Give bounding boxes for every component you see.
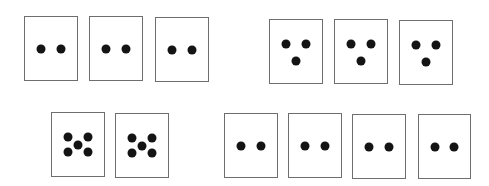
dot-icon (450, 142, 459, 151)
dot-icon (422, 57, 431, 66)
dot-card (334, 19, 388, 84)
dot-icon (37, 44, 46, 53)
dot-icon (64, 132, 73, 141)
dot-icon (256, 141, 265, 150)
dot-icon (187, 45, 196, 54)
dot-card (155, 17, 209, 82)
dot-icon (83, 148, 92, 157)
dot-icon (121, 44, 130, 53)
dot-icon (64, 148, 73, 157)
dot-icon (138, 141, 147, 150)
dot-card (352, 114, 406, 179)
dot-icon (56, 44, 65, 53)
dot-card (224, 113, 278, 178)
dot-card (51, 112, 105, 177)
dot-icon (357, 56, 366, 65)
dot-icon (301, 141, 310, 150)
dot-card (24, 16, 78, 81)
dot-card (269, 19, 323, 84)
dot-icon (412, 40, 421, 49)
dot-icon (431, 40, 440, 49)
dot-icon (128, 133, 137, 142)
dot-icon (102, 44, 111, 53)
dot-icon (365, 142, 374, 151)
dot-icon (366, 39, 375, 48)
dot-card (89, 16, 143, 81)
dot-card (418, 114, 471, 179)
dot-icon (237, 141, 246, 150)
dot-icon (282, 39, 291, 48)
dot-icon (147, 133, 156, 142)
dot-icon (128, 149, 137, 158)
dot-icon (147, 149, 156, 158)
dot-card (115, 113, 169, 178)
dot-card (399, 20, 453, 85)
dot-icon (74, 140, 83, 149)
dot-icon (384, 142, 393, 151)
dot-icon (430, 142, 439, 151)
dot-icon (301, 39, 310, 48)
dot-icon (168, 45, 177, 54)
dot-icon (83, 132, 92, 141)
dot-icon (320, 141, 329, 150)
dot-card (288, 113, 342, 178)
dot-icon (347, 39, 356, 48)
dot-icon (292, 56, 301, 65)
